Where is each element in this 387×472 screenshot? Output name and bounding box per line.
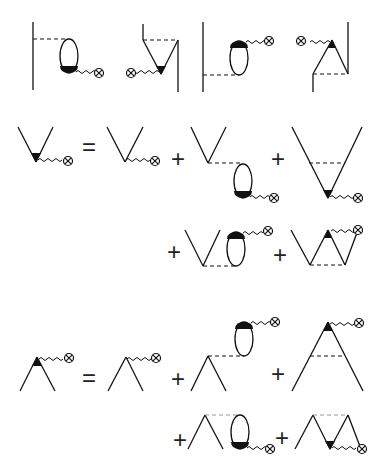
top-diagram-3 (203, 22, 274, 92)
source-icon (264, 227, 273, 236)
plus-sign: + (171, 147, 185, 171)
top-diagram-1 (33, 22, 104, 90)
source-icon (265, 37, 274, 46)
v-rhs-3 (292, 127, 363, 203)
lambda-rhs-5 (295, 415, 367, 454)
plus-sign: + (173, 428, 187, 452)
source-icon (65, 354, 74, 363)
v-rhs-1 (107, 127, 160, 166)
source-icon (266, 445, 275, 454)
v-rhs-4 (185, 227, 273, 267)
v-rhs-2 (191, 127, 279, 203)
plus-sign: + (273, 243, 287, 267)
v-lhs (18, 127, 73, 166)
source-icon (151, 157, 160, 166)
plus-sign: + (275, 426, 289, 450)
lambda-rhs-3 (292, 319, 364, 392)
source-icon (354, 194, 363, 203)
feynman-diagram-figure: = + + + + = + + + + (0, 0, 387, 472)
source-icon (358, 445, 367, 454)
source-icon (354, 226, 363, 235)
plus-sign: + (171, 367, 185, 391)
plus-sign: + (271, 147, 285, 171)
top-diagram-4 (297, 22, 349, 92)
source-icon (270, 194, 279, 203)
source-icon (271, 318, 280, 327)
source-icon (152, 354, 161, 363)
diagram-canvas (0, 0, 387, 472)
lambda-rhs-4 (188, 415, 275, 454)
top-diagram-2 (127, 24, 179, 92)
source-icon (127, 69, 136, 78)
lambda-lhs (20, 354, 74, 392)
equals-sign: = (82, 135, 96, 159)
lambda-rhs-1 (108, 354, 161, 392)
v-rhs-5 (291, 226, 363, 266)
equals-sign: = (82, 366, 96, 390)
source-icon (64, 157, 73, 166)
source-icon (355, 319, 364, 328)
lambda-rhs-2 (191, 318, 280, 392)
plus-sign: + (167, 240, 181, 264)
source-icon (95, 69, 104, 78)
source-icon (297, 37, 306, 46)
plus-sign: + (271, 362, 285, 386)
